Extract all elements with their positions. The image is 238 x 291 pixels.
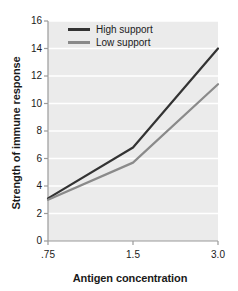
legend-item-high-support: High support [68,23,178,36]
legend-label-low-support: Low support [96,37,150,48]
legend-swatch-high-support [68,28,90,31]
y-axis-title: Strength of immune response [8,23,24,243]
chart-figure: 0246810121416 .751.53.0 Strength of immu… [0,0,238,291]
x-axis-title: Antigen concentration [30,272,230,284]
chart-legend: High support Low support [68,23,178,49]
legend-swatch-low-support [68,41,90,44]
x-tick-label: .75 [28,250,68,260]
legend-label-high-support: High support [96,24,153,35]
x-tick-label: 3.0 [198,250,238,260]
legend-item-low-support: Low support [68,36,178,49]
x-tick-label: 1.5 [113,250,153,260]
